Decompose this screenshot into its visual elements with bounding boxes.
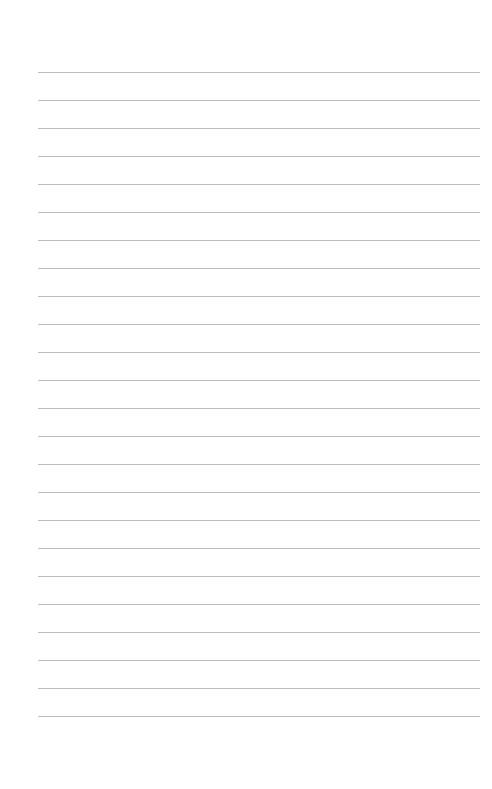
ruled-line [38,492,480,493]
ruled-line [38,268,480,269]
ruled-line [38,548,480,549]
ruled-line [38,660,480,661]
ruled-line [38,380,480,381]
ruled-line [38,296,480,297]
lined-page [0,0,492,789]
ruled-line [38,100,480,101]
ruled-line [38,408,480,409]
ruled-line [38,716,480,717]
ruled-line [38,632,480,633]
ruled-line [38,240,480,241]
ruled-line [38,576,480,577]
ruled-line [38,72,480,73]
ruled-line [38,464,480,465]
ruled-line [38,156,480,157]
ruled-line [38,128,480,129]
ruled-line [38,212,480,213]
ruled-line [38,604,480,605]
ruled-line [38,352,480,353]
ruled-line [38,324,480,325]
ruled-line [38,436,480,437]
ruled-line [38,184,480,185]
ruled-line [38,688,480,689]
ruled-line [38,520,480,521]
